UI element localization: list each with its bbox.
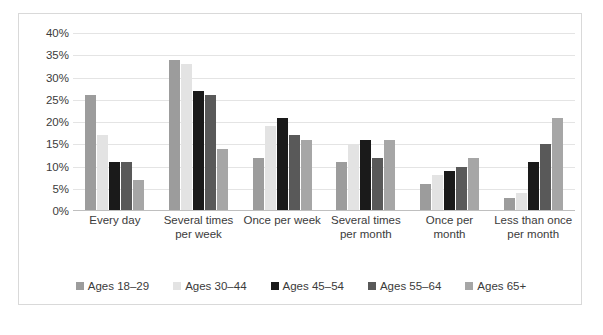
bar[interactable] <box>169 60 180 211</box>
bar[interactable] <box>217 149 228 211</box>
bar[interactable] <box>528 162 539 211</box>
y-axis-tick: 35% <box>23 49 69 61</box>
legend-item[interactable]: Ages 55–64 <box>368 280 441 292</box>
y-axis-tick: 20% <box>23 116 69 128</box>
y-axis-tick: 0% <box>23 205 69 217</box>
bar[interactable] <box>444 171 455 211</box>
y-axis-tick: 30% <box>23 72 69 84</box>
plot-area <box>73 33 575 211</box>
bar[interactable] <box>265 126 276 211</box>
y-axis-tick: 15% <box>23 138 69 150</box>
bar[interactable] <box>205 95 216 211</box>
category-label: Every day <box>73 214 157 241</box>
bar[interactable] <box>516 193 527 211</box>
category-label: Once per month <box>408 214 492 241</box>
bar[interactable] <box>420 184 431 211</box>
y-axis-tick: 10% <box>23 161 69 173</box>
legend-label: Ages 30–44 <box>185 280 246 292</box>
chart-legend: Ages 18–29Ages 30–44Ages 45–54Ages 55–64… <box>19 280 583 292</box>
bar-groups <box>73 33 575 211</box>
bar-group <box>408 33 492 211</box>
bar[interactable] <box>277 118 288 211</box>
bar[interactable] <box>85 95 96 211</box>
bar[interactable] <box>468 158 479 211</box>
bar[interactable] <box>253 158 264 211</box>
bar-group <box>491 33 575 211</box>
bar-group <box>324 33 408 211</box>
bar[interactable] <box>133 180 144 211</box>
x-axis-line <box>73 210 575 211</box>
bar[interactable] <box>109 162 120 211</box>
legend-item[interactable]: Ages 18–29 <box>76 280 149 292</box>
bar[interactable] <box>504 198 515 211</box>
bar-group <box>240 33 324 211</box>
legend-item[interactable]: Ages 30–44 <box>173 280 246 292</box>
bar[interactable] <box>384 140 395 211</box>
y-axis-tick: 25% <box>23 94 69 106</box>
y-axis-tick: 5% <box>23 183 69 195</box>
bar[interactable] <box>289 135 300 211</box>
bar[interactable] <box>97 135 108 211</box>
category-label: Several times per month <box>324 214 408 241</box>
legend-item[interactable]: Ages 65+ <box>465 280 526 292</box>
bar[interactable] <box>360 140 371 211</box>
legend-swatch-icon <box>368 282 376 290</box>
legend-label: Ages 18–29 <box>88 280 149 292</box>
bar[interactable] <box>456 167 467 212</box>
category-label: Once per week <box>240 214 324 241</box>
bar[interactable] <box>372 158 383 211</box>
bar[interactable] <box>121 162 132 211</box>
category-labels: Every daySeveral times per weekOnce per … <box>73 214 575 241</box>
legend-swatch-icon <box>173 282 181 290</box>
y-axis-tick: 40% <box>23 27 69 39</box>
figure-caption <box>8 322 588 335</box>
bar[interactable] <box>432 175 443 211</box>
bar[interactable] <box>301 140 312 211</box>
category-label: Less than once per month <box>491 214 575 241</box>
legend-swatch-icon <box>465 282 473 290</box>
bar[interactable] <box>181 64 192 211</box>
legend-swatch-icon <box>271 282 279 290</box>
bar-group <box>157 33 241 211</box>
bar[interactable] <box>540 144 551 211</box>
legend-label: Ages 65+ <box>477 280 526 292</box>
legend-swatch-icon <box>76 282 84 290</box>
bar[interactable] <box>336 162 347 211</box>
bar[interactable] <box>348 144 359 211</box>
bar[interactable] <box>552 118 563 211</box>
chart-container: 40%35%30%25%20%15%10%5%0% Every daySever… <box>18 13 582 305</box>
legend-label: Ages 55–64 <box>380 280 441 292</box>
bar[interactable] <box>193 91 204 211</box>
legend-item[interactable]: Ages 45–54 <box>271 280 344 292</box>
y-axis: 40%35%30%25%20%15%10%5%0% <box>23 14 69 306</box>
category-label: Several times per week <box>157 214 241 241</box>
bar-group <box>73 33 157 211</box>
legend-label: Ages 45–54 <box>283 280 344 292</box>
chart-plot-wrapper: 40%35%30%25%20%15%10%5%0% Every daySever… <box>19 14 583 306</box>
